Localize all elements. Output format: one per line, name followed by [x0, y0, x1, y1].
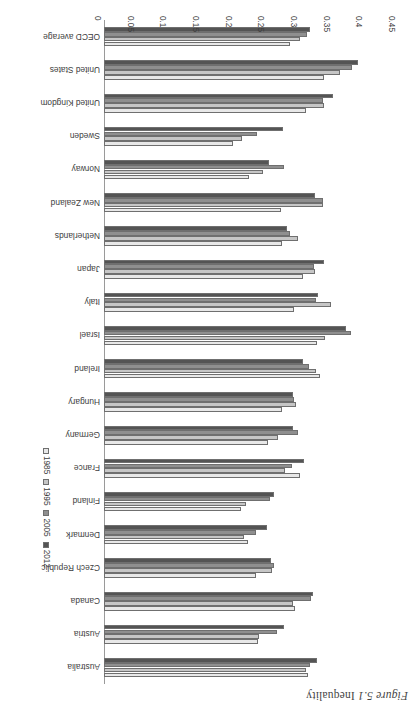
- legend-label: 1995: [42, 487, 51, 505]
- category-label: Sweden: [70, 132, 100, 140]
- bar: [104, 397, 294, 402]
- bar: [104, 473, 300, 478]
- axis-tick-label: 0.35: [321, 16, 329, 32]
- category-label: Australia: [67, 663, 100, 671]
- bar: [104, 535, 244, 540]
- bar: [104, 402, 296, 407]
- bar: [104, 269, 315, 274]
- figure-caption-text: Inequality: [306, 690, 355, 702]
- category-label: Canada: [71, 597, 100, 605]
- bar: [104, 630, 277, 635]
- category-label: Hungary: [68, 397, 100, 405]
- bar: [104, 407, 282, 412]
- bar-group: [104, 319, 398, 352]
- bar-group: [104, 186, 398, 219]
- bar: [104, 208, 281, 213]
- category-label: United States: [50, 65, 100, 73]
- bar: [104, 103, 324, 108]
- bar-group: [104, 252, 398, 285]
- bar: [104, 307, 294, 312]
- axis-tick-label: 0.3: [289, 16, 297, 27]
- bar: [104, 264, 314, 269]
- legend-label: 2005: [42, 518, 51, 536]
- bar-group: [104, 86, 398, 119]
- bar: [104, 302, 331, 307]
- legend-label: 1985: [42, 456, 51, 474]
- bar: [104, 540, 248, 545]
- bar: [104, 440, 268, 445]
- bar: [104, 298, 316, 303]
- bar: [104, 170, 263, 175]
- bar: [104, 293, 318, 298]
- bar: [104, 492, 274, 497]
- category-label: Netherlands: [55, 231, 100, 239]
- bar: [104, 32, 307, 37]
- bar: [104, 596, 311, 601]
- bar: [104, 530, 256, 535]
- bar-group: [104, 518, 398, 551]
- bar: [104, 75, 324, 80]
- bar: [104, 98, 323, 103]
- bar: [104, 160, 269, 165]
- figure-inequality: Figure 5.1 Inequality AustraliaAustriaCa…: [0, 0, 414, 706]
- bar: [104, 430, 298, 435]
- bar: [104, 241, 282, 246]
- bar: [104, 193, 315, 198]
- bar: [104, 468, 285, 473]
- bar-group: [104, 286, 398, 319]
- bar-group: [104, 53, 398, 86]
- bar: [104, 331, 351, 336]
- bar: [104, 260, 324, 265]
- category-label: Norway: [72, 165, 100, 173]
- axis-tick-label: 0.15: [191, 16, 199, 32]
- figure-caption-number: Figure 5.1: [358, 690, 408, 702]
- bar: [104, 132, 257, 137]
- category-label: Japan: [77, 265, 100, 273]
- legend-swatch: [44, 510, 50, 516]
- bar: [104, 392, 293, 397]
- bar: [104, 558, 271, 563]
- bar: [104, 65, 352, 70]
- bar: [104, 42, 290, 47]
- bar: [104, 326, 346, 331]
- category-label: Israel: [80, 331, 100, 339]
- axis-tick-label: 0: [93, 16, 101, 21]
- category-label: Germany: [66, 431, 100, 439]
- bar: [104, 601, 293, 606]
- axis-tick-label: 0.2: [223, 16, 231, 27]
- bar: [104, 175, 249, 180]
- legend-item: 1985: [42, 448, 50, 474]
- bar: [104, 70, 340, 75]
- chart-legend: 1985199520052012: [42, 448, 50, 573]
- category-label: Denmark: [66, 530, 100, 538]
- bar: [104, 426, 293, 431]
- bar: [104, 203, 323, 208]
- category-label: Finland: [73, 497, 100, 505]
- legend-item: 2005: [42, 510, 50, 536]
- bar-group: [104, 452, 398, 485]
- category-label: Italy: [85, 298, 100, 306]
- bar: [104, 573, 256, 578]
- bar: [104, 658, 317, 663]
- bar: [104, 127, 283, 132]
- bar-group: [104, 551, 398, 584]
- bar: [104, 563, 274, 568]
- bar: [104, 663, 310, 668]
- legend-swatch: [44, 448, 50, 454]
- bar-group: [104, 120, 398, 153]
- category-label: Austria: [74, 630, 100, 638]
- bar: [104, 502, 246, 507]
- category-label: France: [74, 464, 100, 472]
- legend-label: 2012: [42, 550, 51, 568]
- axis-tick-label: 0.05: [125, 16, 133, 32]
- bar-chart-plot-area: [104, 20, 398, 684]
- bar: [104, 435, 278, 440]
- bar-group: [104, 352, 398, 385]
- bar: [104, 369, 316, 374]
- bar: [104, 625, 284, 630]
- rotated-page-canvas: Figure 5.1 Inequality AustraliaAustriaCa…: [0, 0, 414, 706]
- axis-tick-label: 0.4: [354, 16, 362, 27]
- axis-tick-label: 0.1: [158, 16, 166, 27]
- bar: [104, 141, 233, 146]
- bar: [104, 634, 259, 639]
